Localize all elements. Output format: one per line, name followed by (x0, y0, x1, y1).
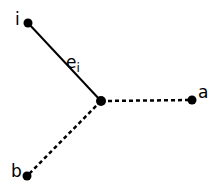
edge-center-b (27, 101, 101, 176)
node-i-label: i (15, 9, 20, 29)
node-a (188, 96, 197, 105)
edge-label-subscript: i (76, 61, 79, 75)
edge-center-a (101, 100, 192, 101)
graph-diagram: i a b ei (0, 0, 219, 189)
node-b-label: b (11, 161, 22, 181)
node-b (23, 172, 32, 181)
edge-label-main: e (66, 52, 76, 72)
edge-i-center (28, 23, 101, 101)
node-a-label: a (198, 82, 208, 102)
node-i (24, 19, 33, 28)
edge-label: ei (66, 52, 80, 75)
node-center (96, 96, 106, 106)
